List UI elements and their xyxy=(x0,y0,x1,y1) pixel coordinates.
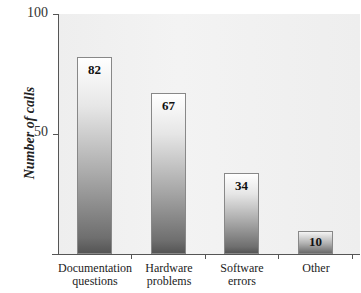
x-label-other: Other xyxy=(276,262,356,275)
bar-value: 34 xyxy=(225,178,258,194)
bar-hardware: 67 xyxy=(151,93,186,254)
x-tick xyxy=(131,254,132,259)
x-label-hardware: Hardware problems xyxy=(129,262,209,288)
bar-value: 10 xyxy=(299,234,332,250)
bar-other: 10 xyxy=(298,231,333,254)
y-tick-label-100: 100 xyxy=(0,5,48,21)
y-axis xyxy=(58,14,59,255)
x-tick xyxy=(205,254,206,259)
bar-value: 67 xyxy=(152,98,185,114)
x-tick xyxy=(278,254,279,259)
x-axis xyxy=(52,254,360,255)
x-label-software: Software errors xyxy=(202,262,282,288)
bar-software: 34 xyxy=(224,173,259,254)
y-tick-label-50: 50 xyxy=(0,124,48,140)
x-tick xyxy=(352,254,353,259)
bar-documentation: 82 xyxy=(77,57,112,254)
x-label-documentation: Documentation questions xyxy=(55,262,135,288)
bar-value: 82 xyxy=(78,62,111,78)
